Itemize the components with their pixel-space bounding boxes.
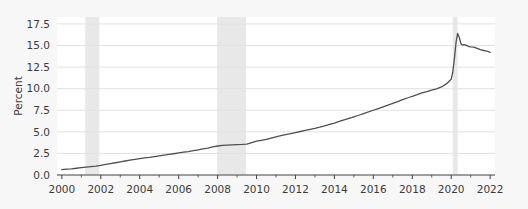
x-tick-label: 2010 (243, 183, 270, 195)
plot-area-background (57, 17, 495, 175)
y-axis-title: Percent (12, 76, 24, 116)
recession-band (217, 17, 246, 175)
y-tick-label: 2.5 (33, 147, 50, 159)
y-tick-label: 7.5 (33, 104, 50, 116)
x-tick-label: 2004 (126, 183, 153, 195)
y-tick-label: 12.5 (27, 61, 50, 73)
line-chart: 0.02.55.07.510.012.515.017.5 20002002200… (0, 0, 528, 209)
x-tick-label: 2014 (321, 183, 348, 195)
y-tick-label: 5.0 (33, 126, 50, 138)
x-tick-label: 2022 (477, 183, 504, 195)
y-tick-label: 15.0 (27, 39, 50, 51)
x-tick-label: 2002 (87, 183, 114, 195)
y-tick-label: 17.5 (27, 18, 50, 30)
x-tick-label: 2000 (49, 183, 76, 195)
x-tick-label: 2006 (165, 183, 192, 195)
recession-band (85, 17, 99, 175)
x-tick-label: 2012 (282, 183, 309, 195)
x-tick-label: 2020 (438, 183, 465, 195)
x-tick-label: 2008 (204, 183, 231, 195)
x-tick-label: 2016 (360, 183, 387, 195)
x-tick-label: 2018 (399, 183, 426, 195)
y-tick-label: 10.0 (27, 82, 50, 94)
y-tick-label: 0.0 (33, 169, 50, 181)
chart-figure: 0.02.55.07.510.012.515.017.5 20002002200… (0, 0, 528, 209)
